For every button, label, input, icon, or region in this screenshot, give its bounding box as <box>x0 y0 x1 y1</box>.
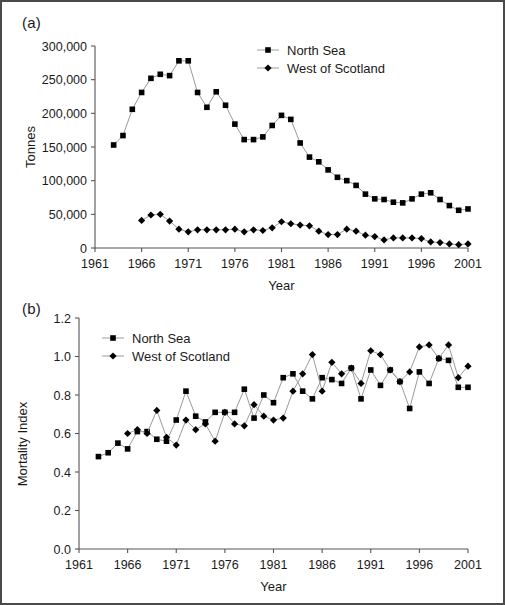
data-point-marker-square <box>465 385 471 391</box>
data-point-marker-square <box>271 400 277 406</box>
data-point-marker-square <box>329 377 335 383</box>
data-point-marker-square <box>154 436 160 442</box>
data-point-marker-square <box>381 197 387 203</box>
data-point-marker-square <box>279 113 285 119</box>
data-point-marker-diamond <box>138 217 145 224</box>
data-point-marker-diamond <box>185 228 192 235</box>
data-point-marker-square <box>157 71 163 77</box>
legend-marker-diamond <box>264 64 271 71</box>
legend-marker-square <box>265 47 271 53</box>
data-point-marker-square <box>437 197 443 203</box>
data-point-marker-square <box>260 134 266 140</box>
data-point-marker-diamond <box>299 370 306 377</box>
data-point-marker-square <box>344 178 350 184</box>
x-tick-label: 1996 <box>407 257 435 271</box>
data-point-marker-diamond <box>194 226 201 233</box>
y-tick-label: 150,000 <box>42 141 87 155</box>
y-tick-label: 100,000 <box>42 174 87 188</box>
data-point-marker-diamond <box>362 232 369 239</box>
chart-b-svg: 0.00.20.40.60.81.01.21961196619711976198… <box>2 294 505 605</box>
data-point-marker-diamond <box>390 234 397 241</box>
data-point-marker-square <box>280 375 286 381</box>
x-tick-label: 1996 <box>405 558 433 572</box>
data-point-marker-square <box>307 154 313 160</box>
x-tick-label: 1971 <box>162 558 190 572</box>
x-tick-label: 2001 <box>454 257 482 271</box>
data-point-marker-diamond <box>380 236 387 243</box>
data-point-marker-diamond <box>343 226 350 233</box>
data-point-marker-square <box>319 375 325 381</box>
data-point-marker-square <box>335 175 341 181</box>
panel-b: 0.00.20.40.60.81.01.21961196619711976198… <box>2 294 505 605</box>
data-point-marker-square <box>261 392 267 398</box>
data-point-marker-diamond <box>418 235 425 242</box>
data-point-marker-square <box>288 117 294 123</box>
data-point-marker-square <box>183 388 189 394</box>
data-point-marker-diamond <box>259 227 266 234</box>
x-tick-label: 1971 <box>174 257 202 271</box>
series-line-north-sea <box>98 358 468 456</box>
data-point-marker-diamond <box>157 211 164 218</box>
data-point-marker-square <box>115 440 121 446</box>
data-point-marker-square <box>105 450 111 456</box>
data-point-marker-diamond <box>297 222 304 229</box>
data-point-marker-diamond <box>241 228 248 235</box>
data-point-marker-diamond <box>319 388 326 395</box>
data-point-marker-square <box>363 191 369 197</box>
x-tick-label: 1961 <box>81 257 109 271</box>
data-point-marker-square <box>407 406 413 412</box>
data-point-marker-diamond <box>250 226 257 233</box>
legend-label-west-of-scotland: West of Scotland <box>287 61 385 76</box>
x-tick-label: 1976 <box>221 257 249 271</box>
data-point-marker-square <box>417 369 423 375</box>
data-point-marker-diamond <box>124 430 131 437</box>
x-tick-label: 1966 <box>114 558 142 572</box>
data-point-marker-square <box>455 385 461 391</box>
data-point-marker-diamond <box>306 222 313 229</box>
data-point-marker-diamond <box>309 351 316 358</box>
series-line-north-sea <box>114 61 468 210</box>
data-point-marker-square <box>426 381 432 387</box>
data-point-marker-diamond <box>278 218 285 225</box>
data-point-marker-diamond <box>325 231 332 238</box>
data-point-marker-diamond <box>147 211 154 218</box>
data-point-marker-diamond <box>357 380 364 387</box>
data-point-marker-square <box>368 367 374 373</box>
x-tick-label: 1981 <box>260 558 288 572</box>
legend-marker-square <box>110 335 116 341</box>
data-point-marker-square <box>325 167 331 173</box>
x-tick-label: 1966 <box>128 257 156 271</box>
data-point-marker-diamond <box>334 231 341 238</box>
data-point-marker-square <box>269 123 275 129</box>
data-point-marker-square <box>372 196 378 202</box>
data-point-marker-square <box>195 90 201 96</box>
data-point-marker-square <box>173 417 179 423</box>
x-axis-title: Year <box>260 579 287 594</box>
y-tick-label: 250,000 <box>42 73 87 87</box>
data-point-marker-square <box>232 121 238 127</box>
data-point-marker-square <box>456 207 462 213</box>
y-tick-label: 0.6 <box>54 427 71 441</box>
x-tick-label: 1991 <box>357 558 385 572</box>
data-point-marker-diamond <box>408 234 415 241</box>
x-tick-label: 1986 <box>308 558 336 572</box>
data-point-marker-square <box>242 386 248 392</box>
data-point-marker-square <box>409 196 415 202</box>
data-point-marker-square <box>378 383 384 389</box>
y-axis-title: Tonnes <box>23 126 38 168</box>
data-point-marker-square <box>241 137 247 143</box>
data-point-marker-square <box>353 183 359 189</box>
data-point-marker-square <box>428 190 434 196</box>
data-point-marker-square <box>339 381 345 387</box>
data-point-marker-diamond <box>280 415 287 422</box>
legend-label-north-sea: North Sea <box>132 331 191 346</box>
data-point-marker-square <box>212 410 218 416</box>
data-point-marker-square <box>185 58 191 64</box>
y-tick-label: 0.8 <box>54 389 71 403</box>
data-point-marker-square <box>176 58 182 64</box>
legend-marker-diamond <box>109 352 116 359</box>
data-point-marker-diamond <box>287 220 294 227</box>
data-point-marker-diamond <box>399 234 406 241</box>
legend-label-west-of-scotland: West of Scotland <box>132 349 230 364</box>
x-tick-label: 1981 <box>268 257 296 271</box>
